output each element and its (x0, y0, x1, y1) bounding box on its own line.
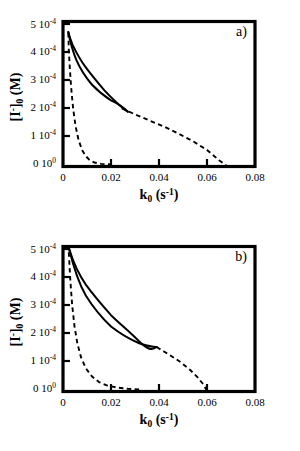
plot-frame-b (63, 247, 255, 392)
x-tick-label: 0 (60, 171, 66, 183)
x-tick-label: 0.08 (245, 396, 265, 408)
y-tick-label: 2 10-4 (31, 325, 57, 338)
x-axis-tick-labels-b: 0 0.02 0.04 0.06 0.08 (60, 396, 265, 408)
plot-frame-a (63, 22, 255, 167)
y-tick-label: 4 10-4 (31, 44, 57, 57)
y-axis-title-a: [I-]0 (M) (8, 72, 25, 121)
series-dashed-a (68, 33, 226, 166)
series-lower-solid-b (69, 249, 157, 348)
chart-svg-b: 5 10-4 4 10-4 3 10-4 2 10-4 1 10-4 0 100… (0, 225, 300, 450)
x-tick-label: 0.04 (149, 396, 169, 408)
panel-label-a: a) (236, 24, 247, 40)
y-tick-label: 5 10-4 (31, 242, 57, 255)
x-tick-label: 0.06 (197, 171, 217, 183)
y-tick-label: 5 10-4 (31, 17, 57, 30)
figure-container: 5 10-4 4 10-4 3 10-4 2 10-4 1 10-4 0 100… (0, 0, 300, 451)
x-axis-tick-labels-a: 0 0.02 0.04 0.06 0.08 (60, 171, 265, 183)
y-axis-title-b: [I-]0 (M) (8, 297, 25, 346)
x-axis-title-b: k0 (s-1) (140, 412, 179, 429)
x-axis-title-a: k0 (s-1) (140, 187, 179, 204)
series-upper-solid-b (69, 249, 157, 349)
y-tick-label: 1 10-4 (31, 128, 57, 141)
x-tick-label: 0.02 (101, 396, 120, 408)
y-tick-label: 2 10-4 (31, 100, 57, 113)
chart-panel-a: 5 10-4 4 10-4 3 10-4 2 10-4 1 10-4 0 100… (0, 0, 300, 225)
y-axis-tick-labels-a: 5 10-4 4 10-4 3 10-4 2 10-4 1 10-4 0 100 (31, 17, 57, 169)
y-tick-label: 1 10-4 (31, 353, 57, 366)
chart-svg-a: 5 10-4 4 10-4 3 10-4 2 10-4 1 10-4 0 100… (0, 0, 300, 225)
y-tick-label: 0 100 (33, 156, 56, 169)
x-tick-label: 0.02 (101, 171, 120, 183)
series-upper-solid-a (68, 32, 128, 112)
series-lower-solid-a (68, 32, 128, 112)
y-tick-label: 0 100 (33, 381, 56, 394)
x-tick-label: 0.08 (245, 171, 265, 183)
y-tick-label: 3 10-4 (31, 297, 57, 310)
x-tick-label: 0 (60, 396, 66, 408)
y-tick-label: 3 10-4 (31, 72, 57, 85)
series-dashed-b (69, 252, 207, 391)
panel-label-b: b) (235, 249, 247, 265)
y-axis-tick-labels-b: 5 10-4 4 10-4 3 10-4 2 10-4 1 10-4 0 100 (31, 242, 57, 394)
x-tick-label: 0.06 (197, 396, 217, 408)
x-tick-label: 0.04 (149, 171, 169, 183)
chart-panel-b: 5 10-4 4 10-4 3 10-4 2 10-4 1 10-4 0 100… (0, 225, 300, 450)
y-tick-label: 4 10-4 (31, 269, 57, 282)
